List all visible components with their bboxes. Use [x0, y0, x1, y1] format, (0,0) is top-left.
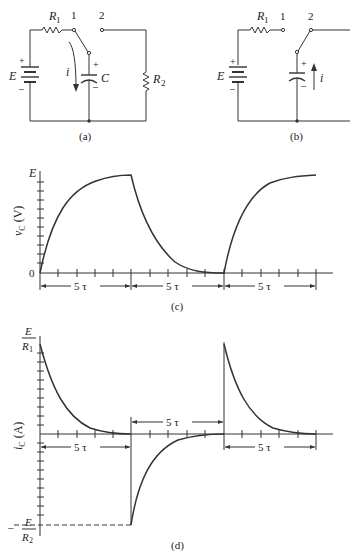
- chart-c-interval-1: 5 τ: [74, 280, 87, 292]
- switch-contact-2-a: [100, 28, 103, 31]
- chart-d-y-top-denominator: R: [21, 340, 29, 352]
- svg-text:iC (A): iC (A): [11, 422, 27, 450]
- current-arrow-a: [69, 42, 76, 88]
- label-plus-cap-b: +: [301, 58, 307, 69]
- wire-a-left-top: [30, 30, 42, 65]
- chart-c-interval-2: 5 τ: [166, 280, 179, 292]
- chart-d-y-bottom-denominator-sub: 2: [29, 536, 33, 545]
- switch-blade-a: [75, 31, 88, 52]
- chart-d-x-ticks: [58, 430, 316, 450]
- chart-d-curve-discharge: [131, 434, 224, 525]
- chart-c-x-ticks: [58, 269, 316, 290]
- chart-d-curve-charge-2: [224, 344, 316, 434]
- circuit-b: [229, 27, 350, 121]
- chart-c-y-axis-label: vC (V): [11, 206, 27, 236]
- label-i-b: i: [320, 71, 323, 85]
- label-minus-cap-b: –: [300, 80, 307, 91]
- label-e-b: E: [216, 69, 225, 83]
- label-r1-b-sub: 1: [264, 15, 269, 25]
- label-pos2-a: 2: [99, 9, 105, 21]
- label-minus-cap-a: –: [92, 81, 99, 92]
- chart-d-y-top-denominator-sub: 1: [29, 345, 33, 354]
- chart-d-y-bottom-numerator: E: [24, 516, 32, 528]
- chart-d-interval-1: 5 τ: [74, 441, 87, 453]
- label-r2-a-sub: 2: [161, 78, 166, 88]
- label-r2-a: R: [152, 72, 161, 86]
- switch-pivot-a: [87, 51, 90, 54]
- chart-d-y-axis-label: iC (A): [11, 422, 27, 450]
- caption-a: (a): [79, 130, 92, 143]
- chart-c: [37, 171, 333, 290]
- label-pos1-a: 1: [71, 9, 77, 21]
- label-e-a: E: [8, 69, 17, 83]
- circuit-a: [21, 27, 149, 121]
- wire-b-left-top: [238, 30, 250, 65]
- caption-c: (c): [171, 300, 184, 313]
- chart-d-y-bottom-denominator: R: [21, 531, 29, 543]
- caption-b: (b): [290, 130, 303, 143]
- chart-d-y-bottom-sign: –: [7, 521, 14, 533]
- switch-contact-1-b: [281, 28, 284, 31]
- label-pos2-b: 2: [308, 10, 314, 22]
- label-r1-a-sub: 1: [56, 15, 61, 25]
- chart-c-interval-3: 5 τ: [258, 280, 271, 292]
- chart-d-y-top-numerator: E: [24, 325, 32, 337]
- chart-d: [14, 336, 333, 536]
- chart-d-interval-2: 5 τ: [166, 416, 179, 428]
- chart-c-curve: [40, 175, 316, 273]
- resistor-r1-b: [250, 27, 281, 33]
- label-c-a: C: [101, 71, 110, 85]
- label-minus-battery-b: –: [229, 83, 236, 94]
- chart-c-y-top-label: E: [28, 166, 37, 180]
- resistor-r1-a: [42, 27, 72, 33]
- switch-pivot-b: [295, 50, 298, 53]
- caption-d: (d): [171, 539, 184, 551]
- label-pos1-b: 1: [280, 10, 286, 22]
- label-plus-cap-a: +: [93, 59, 99, 70]
- switch-blade-b: [298, 31, 310, 51]
- label-plus-battery-b: +: [230, 56, 236, 67]
- label-i-a: i: [66, 65, 69, 79]
- svg-text:vC (V): vC (V): [11, 206, 27, 236]
- chart-d-curve-charge-1: [40, 344, 131, 434]
- label-plus-battery-a: +: [19, 55, 25, 66]
- chart-d-interval-3: 5 τ: [258, 441, 271, 453]
- resistor-r2-a: [143, 70, 149, 121]
- label-minus-battery-a: –: [18, 83, 25, 94]
- chart-c-y-zero-label: 0: [29, 267, 35, 279]
- wire-a-right-top: [104, 30, 146, 70]
- figure-canvas: R 1 1 2 E + – i + – C R 2 (a) R 1 1 2 E …: [0, 0, 350, 551]
